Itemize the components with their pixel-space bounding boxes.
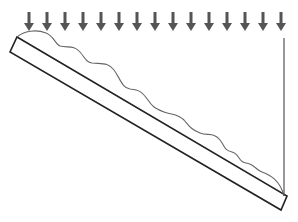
diagram-canvas bbox=[0, 0, 298, 222]
distributed-load-arrows bbox=[24, 12, 286, 31]
down-arrow-icon bbox=[114, 12, 124, 31]
down-arrow-icon bbox=[132, 12, 142, 31]
down-arrow-icon bbox=[78, 12, 88, 31]
inclined-slab-load-diagram bbox=[0, 0, 298, 222]
down-arrow-icon bbox=[168, 12, 178, 31]
down-arrow-icon bbox=[42, 12, 52, 31]
down-arrow-icon bbox=[24, 12, 34, 31]
down-arrow-icon bbox=[204, 12, 214, 31]
down-arrow-icon bbox=[240, 12, 250, 31]
down-arrow-icon bbox=[60, 12, 70, 31]
inclined-slab bbox=[10, 37, 287, 210]
down-arrow-icon bbox=[258, 12, 268, 31]
down-arrow-icon bbox=[186, 12, 196, 31]
down-arrow-icon bbox=[96, 12, 106, 31]
down-arrow-icon bbox=[222, 12, 232, 31]
down-arrow-icon bbox=[276, 12, 286, 31]
down-arrow-icon bbox=[150, 12, 160, 31]
